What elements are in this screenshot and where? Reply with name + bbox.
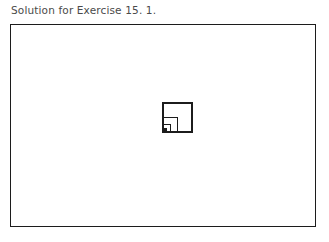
figure-container (11, 25, 315, 226)
page-title: Solution for Exercise 15. 1. (11, 4, 156, 17)
nested-square-level-4 (163, 128, 167, 132)
recursive-nested-squares-figure (161, 101, 194, 134)
drawing-frame (10, 24, 316, 227)
